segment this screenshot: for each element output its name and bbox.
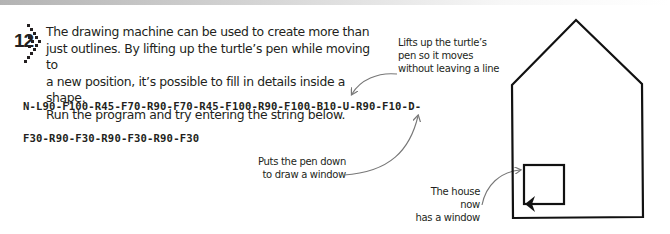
annotation-arrow-lifts — [352, 74, 397, 94]
annotation-arrow-window — [482, 170, 520, 205]
house-window — [524, 165, 564, 204]
annotation-arrow-puts — [344, 116, 418, 175]
house-outline — [512, 20, 643, 218]
diagram-overlay — [0, 0, 670, 234]
